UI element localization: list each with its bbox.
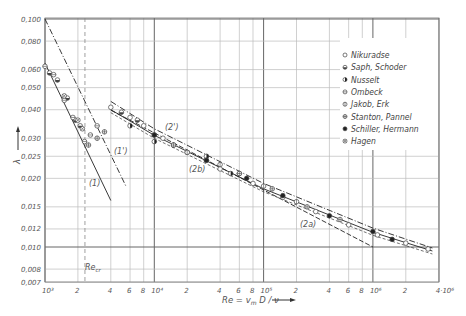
y-tick-label: 0,025 <box>21 153 42 161</box>
x-tick-label: 6 <box>346 287 351 295</box>
legend: NikuradseSaph, SchoderNusseltOmbeckJakob… <box>340 38 438 150</box>
x-tick-label: 2 <box>184 287 189 295</box>
y-tick-label: 0,100 <box>21 16 42 24</box>
y-tick-label: 0,007 <box>21 279 42 287</box>
curve-1 <box>45 19 126 186</box>
x-tick-label: 4 <box>108 287 112 295</box>
svg-text:λ: λ <box>12 159 22 165</box>
x-tick-label: 4 <box>326 287 330 295</box>
x-tick-label: 6 <box>236 287 241 295</box>
x-tick-label: 8 <box>141 287 146 295</box>
y-axis-label: λ <box>12 126 22 165</box>
curve-label-2b: (2b) <box>189 165 205 174</box>
x-tick-label: 10⁶ <box>370 287 382 295</box>
legend-label: Schiller, Hermann <box>351 124 419 134</box>
arrow-up-icon <box>16 126 20 132</box>
y-tick-label: 0,030 <box>21 135 42 143</box>
legend-label: Nusselt <box>351 75 380 85</box>
legend-item: Stanton, Pannel <box>343 112 412 122</box>
y-tick-label: 0,012 <box>21 225 42 233</box>
legend-label: Saph, Schoder <box>351 62 407 72</box>
x-axis-label: Re = vm D / ν <box>222 295 296 306</box>
x-tick-label: 2 <box>75 287 80 295</box>
curve-label-2-prime: (2') <box>165 123 179 132</box>
x-tick-label: 2 <box>294 287 299 295</box>
y-tick-label: 0,008 <box>21 266 42 274</box>
legend-item: Schiller, Hermann <box>343 124 419 134</box>
y-tick-label: 0,080 <box>21 38 42 46</box>
x-tick-label: 10³ <box>42 287 54 295</box>
x-tick-label: 8 <box>359 287 364 295</box>
legend-label: Nikuradse <box>351 50 390 60</box>
x-tick-label: 8 <box>250 287 255 295</box>
y-tick-label: 0,060 <box>21 66 42 74</box>
legend-label: Ombeck <box>351 87 383 97</box>
y-tick-label: 0,010 <box>21 244 42 252</box>
x-tick-label: 6 <box>127 287 132 295</box>
x-tick-label: 4·10⁶ <box>436 287 455 295</box>
y-tick-label: 0,040 <box>21 106 42 114</box>
x-tick-label: 4 <box>217 287 221 295</box>
x-tick-label: 10⁵ <box>261 287 273 295</box>
curve-label-2a: (2a) <box>300 220 316 229</box>
arrow-right-icon <box>290 298 296 302</box>
svg-text:Re = vm D / ν: Re = vm D / ν <box>222 295 279 306</box>
x-tick-label: 2 <box>403 287 408 295</box>
legend-label: Jakob, Erk <box>349 99 390 109</box>
legend-label: Stanton, Pannel <box>351 112 412 122</box>
curve-label-1: (1) <box>89 179 100 188</box>
legend-label: Hagen <box>351 136 376 146</box>
curve-label-1-prime: (1') <box>114 147 128 156</box>
legend-item: Nikuradse <box>343 50 390 60</box>
y-tick-label: 0,015 <box>21 203 42 211</box>
y-tick-label: 0,020 <box>21 175 42 183</box>
friction-factor-chart: NikuradseSaph, SchoderNusseltOmbeckJakob… <box>0 0 466 316</box>
legend-item: Saph, Schoder <box>343 62 407 72</box>
y-tick-label: 0,050 <box>21 84 42 92</box>
re-critical-label: Recr <box>85 263 102 273</box>
x-tick-label: 10⁴ <box>151 287 163 295</box>
